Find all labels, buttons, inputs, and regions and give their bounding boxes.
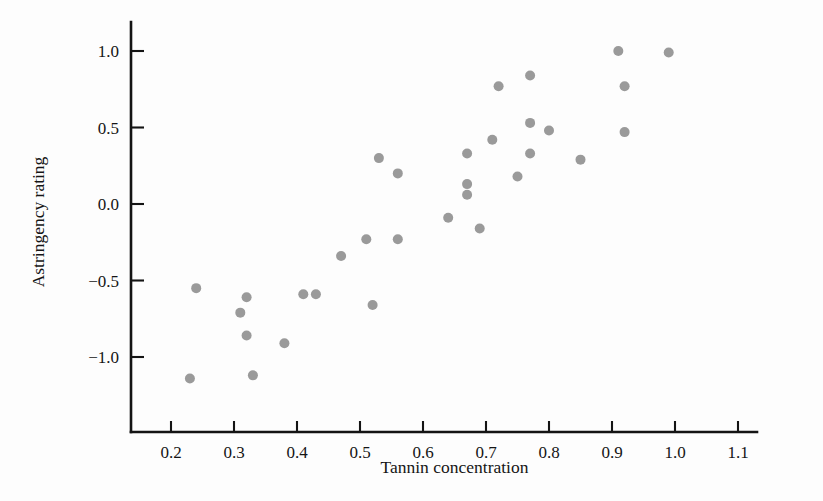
data-point bbox=[475, 223, 485, 233]
data-point bbox=[576, 155, 586, 165]
data-point bbox=[235, 308, 245, 318]
data-point bbox=[311, 289, 321, 299]
data-point bbox=[191, 283, 201, 293]
data-point bbox=[248, 370, 258, 380]
data-point bbox=[361, 234, 371, 244]
data-point bbox=[664, 48, 674, 58]
y-tick-label: −1.0 bbox=[88, 348, 119, 367]
data-point bbox=[513, 171, 523, 181]
x-tick-label: 0.3 bbox=[223, 443, 244, 462]
data-point bbox=[242, 292, 252, 302]
y-axis-title: Astringency rating bbox=[28, 156, 48, 287]
y-tick-labels-group: 1.00.50.0−0.5−1.0 bbox=[88, 42, 119, 367]
data-point bbox=[525, 118, 535, 128]
data-point bbox=[525, 70, 535, 80]
data-point bbox=[620, 127, 630, 137]
data-point bbox=[443, 213, 453, 223]
axes-group bbox=[131, 22, 757, 432]
data-point bbox=[242, 331, 252, 341]
plot-canvas: 0.20.30.40.50.60.70.80.91.01.1 1.00.50.0… bbox=[0, 0, 823, 501]
data-point bbox=[393, 168, 403, 178]
x-tick-label: 1.1 bbox=[727, 443, 748, 462]
tick-marks-group bbox=[131, 51, 738, 432]
data-point bbox=[544, 126, 554, 136]
data-point bbox=[185, 373, 195, 383]
y-tick-label: 0.5 bbox=[98, 119, 119, 138]
data-point bbox=[368, 300, 378, 310]
data-point bbox=[374, 153, 384, 163]
data-point bbox=[525, 149, 535, 159]
data-point bbox=[279, 338, 289, 348]
y-tick-label: 0.0 bbox=[98, 195, 119, 214]
x-tick-label: 0.8 bbox=[538, 443, 559, 462]
scatter-plot-figure: 0.20.30.40.50.60.70.80.91.01.1 1.00.50.0… bbox=[0, 0, 823, 501]
x-tick-label: 0.5 bbox=[349, 443, 370, 462]
data-point bbox=[462, 190, 472, 200]
data-point bbox=[620, 81, 630, 91]
x-axis-title: Tannin concentration bbox=[381, 457, 529, 477]
y-tick-label: −0.5 bbox=[88, 272, 119, 291]
data-point bbox=[298, 289, 308, 299]
data-points-group bbox=[185, 46, 674, 383]
data-point bbox=[462, 179, 472, 189]
data-point bbox=[487, 135, 497, 145]
y-tick-label: 1.0 bbox=[98, 42, 119, 61]
data-point bbox=[494, 81, 504, 91]
data-point bbox=[462, 149, 472, 159]
data-point bbox=[393, 234, 403, 244]
data-point bbox=[613, 46, 623, 56]
data-point bbox=[336, 251, 346, 261]
x-tick-label: 0.4 bbox=[286, 443, 308, 462]
x-tick-label: 0.9 bbox=[601, 443, 622, 462]
x-tick-label: 1.0 bbox=[664, 443, 685, 462]
x-tick-label: 0.2 bbox=[160, 443, 181, 462]
